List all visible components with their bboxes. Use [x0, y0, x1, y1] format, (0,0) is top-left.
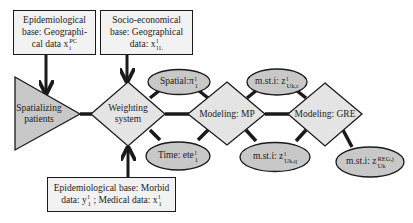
time-label: Time: etel1 [158, 150, 198, 163]
spatializing-label: Spatializing patients [16, 103, 61, 125]
connector-gre-msti-reg [343, 130, 352, 147]
socio-geo-line2: base: Geographical [110, 26, 183, 38]
connector-time-mp [198, 130, 208, 140]
msti-q-label: m.st.i: zlUk,q [253, 151, 297, 164]
modeling-mp-label: Modeling: MP [199, 109, 255, 120]
epi-morbid-line2: data: yl1 ; Medical data: xl1 [54, 194, 170, 207]
msti-reg-label: m.st.i: zREG,jUk [346, 156, 394, 169]
connector-weighting-time [150, 130, 160, 140]
connector-mp-msti-q [246, 130, 256, 141]
epi-morbid-line1: Epidemiological base: Morbid [54, 182, 170, 194]
epi-geo-line3: cal data xPCi [22, 38, 87, 51]
weighting-label: Weighting system [108, 103, 147, 125]
epi-geo-box: Epidemiological base: Geographi- cal dat… [13, 10, 96, 55]
epi-geo-line2: base: Geographi- [22, 26, 87, 38]
socio-geo-box: Socio-economical base: Geographical data… [100, 10, 193, 55]
socio-geo-line3: data: xll1. [110, 38, 183, 51]
epi-geo-line1: Epidemiological [22, 14, 87, 26]
modeling-gre-label: Modeling: GRE [295, 109, 356, 120]
socio-geo-line1: Socio-economical [110, 14, 183, 26]
epi-morbid-box: Epidemiological base: Morbid data: yl1 ;… [47, 177, 176, 212]
spatial-label: Spatial:πl1 [160, 76, 198, 89]
connector-msti-q-gre [296, 130, 306, 141]
msti-c-label: m.st.i: zlUk,c [255, 76, 299, 89]
